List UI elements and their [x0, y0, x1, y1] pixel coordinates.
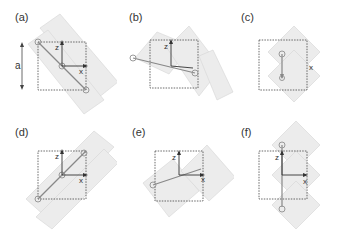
- molecule-structure-d: [0, 121, 117, 242]
- panel-label: (e): [132, 126, 145, 138]
- panel-f: (f) z x: [234, 121, 351, 242]
- z-axis-label: z: [275, 153, 279, 162]
- panel-b: (b) z: [117, 0, 234, 121]
- panel-label: (b): [129, 11, 142, 23]
- panel-label: (a): [15, 11, 28, 23]
- panel-label: (d): [15, 126, 28, 138]
- panel-d: (d) z x: [0, 121, 117, 242]
- x-axis-label: x: [79, 67, 83, 76]
- z-axis-label: z: [55, 43, 59, 52]
- panel-e: (e) z x: [117, 121, 234, 242]
- x-axis-label: x: [79, 176, 83, 185]
- panel-label: (c): [241, 11, 254, 23]
- z-axis-label: z: [164, 42, 168, 51]
- panel-a: (a) z x a: [0, 0, 117, 121]
- dimension-label: a: [15, 60, 21, 71]
- z-axis-label: z: [55, 152, 59, 161]
- x-axis-label: x: [303, 177, 307, 186]
- x-axis-label: x: [309, 63, 313, 72]
- panel-label: (f): [241, 126, 251, 138]
- panel-c: (c) x: [234, 0, 351, 121]
- molecule-structure-e: [117, 121, 234, 242]
- molecule-structure-f: [234, 121, 351, 242]
- z-axis-label: z: [172, 153, 176, 162]
- x-axis-label: x: [201, 175, 205, 184]
